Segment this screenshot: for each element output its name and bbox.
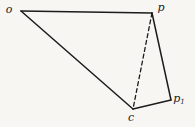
vertex-label-p: p (157, 1, 164, 14)
quadrilateral-diagram: opp1c (0, 0, 195, 127)
edge-p-p1 (152, 13, 171, 100)
vertex-label-p1: p1 (173, 92, 185, 106)
vertex-label-o: o (6, 3, 13, 16)
edge-o-p (21, 11, 152, 13)
vertex-label-c: c (128, 111, 134, 124)
edge-p-c-dashed (133, 13, 152, 109)
geometry-figure: opp1c (0, 0, 195, 127)
edge-o-c (21, 11, 133, 109)
edge-c-p1 (133, 100, 171, 109)
